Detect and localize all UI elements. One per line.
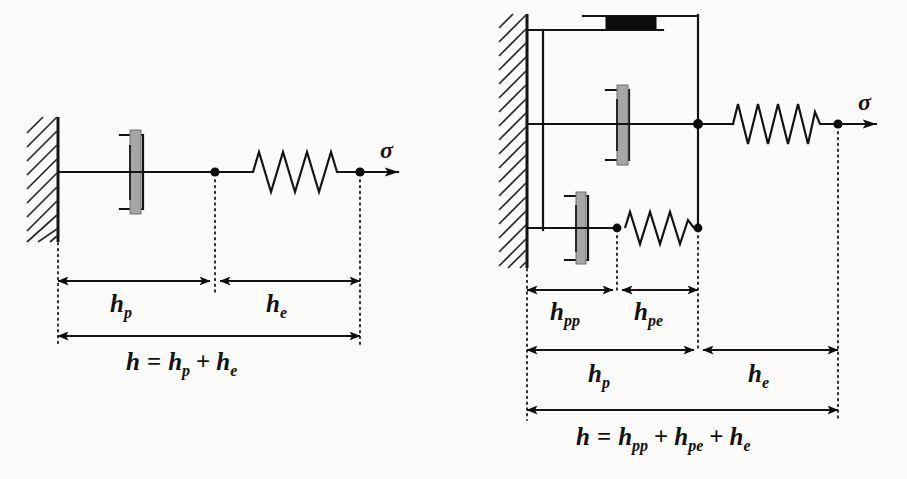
figure-root: σ hp he h=hp+he [0, 0, 907, 479]
fixed-wall [499, 14, 527, 268]
equation-left: h=hp+he [126, 348, 237, 380]
wall-hatching [27, 117, 57, 242]
node-branch-merge-lower [694, 224, 703, 233]
dim-label-h-p: hp [588, 360, 610, 392]
dim-label-h-pe: hpe [634, 298, 663, 330]
node-junction-pp-pe [613, 224, 622, 233]
wall-hatching [499, 14, 526, 268]
fixed-wall [27, 117, 58, 242]
stress-label: σ [858, 89, 872, 115]
friction-slider [527, 16, 698, 30]
spring [253, 152, 360, 192]
dim-label-h-p: hp [110, 290, 132, 322]
stress-label: σ [380, 137, 394, 163]
dashpot-middle [527, 85, 698, 165]
dim-label-h-e: he [748, 360, 769, 391]
right-model: σ hpp hpe hp he [499, 14, 876, 455]
spring-lower [625, 212, 694, 244]
diagram-canvas: σ hp he h=hp+he [0, 0, 907, 479]
dashpot [120, 130, 215, 214]
spring-right [733, 104, 838, 144]
equation-right: h=hpp+hpe+he [576, 423, 751, 455]
dashpot-lower [527, 192, 617, 264]
dim-label-h-pp: hpp [550, 298, 580, 330]
left-model: σ hp he h=hp+he [27, 117, 398, 380]
dim-label-h-e: he [266, 290, 287, 321]
slider-block [606, 17, 656, 29]
